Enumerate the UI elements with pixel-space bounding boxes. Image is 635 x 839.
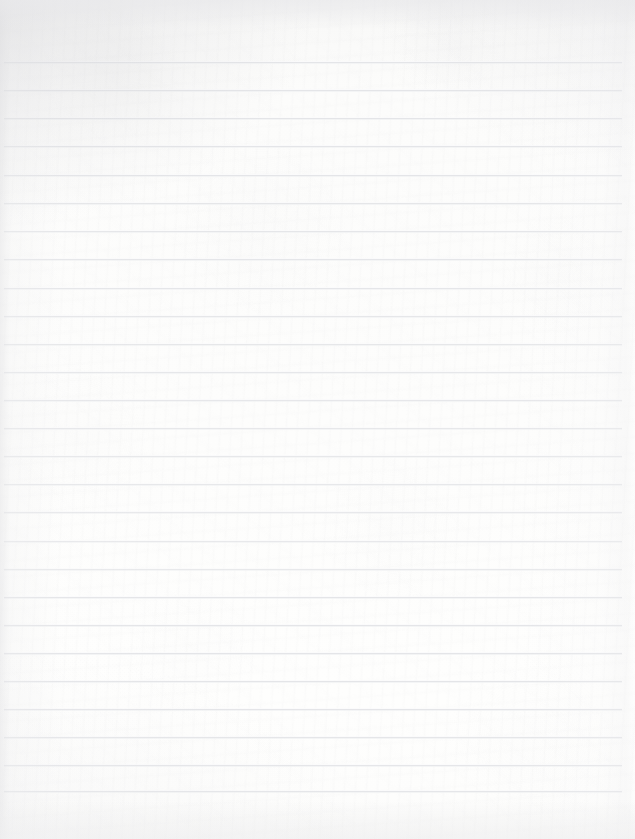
paper-background (0, 0, 635, 839)
scanned-page (0, 0, 635, 839)
